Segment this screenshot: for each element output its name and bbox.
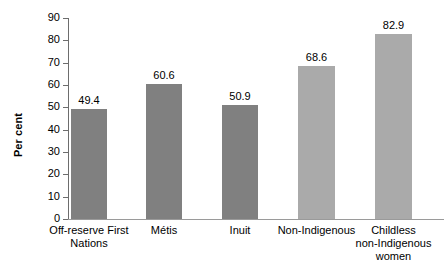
bar-value-label: 60.6 bbox=[153, 70, 174, 81]
y-axis-tick-mark bbox=[63, 85, 68, 86]
bar[interactable]: 49.4 bbox=[71, 109, 107, 219]
y-axis-title: Per cent bbox=[8, 95, 28, 175]
y-axis-tick-mark bbox=[63, 130, 68, 131]
y-axis-tick-label-text: 70 bbox=[28, 57, 60, 68]
y-axis-tick-label-text: 50 bbox=[28, 101, 60, 112]
bar-value-label: 49.4 bbox=[78, 95, 99, 106]
y-axis-tick-label: 80 bbox=[28, 34, 60, 46]
y-axis-tick-label-text: 60 bbox=[28, 79, 60, 90]
y-axis-tick-label: 90 bbox=[28, 12, 60, 24]
y-axis-line bbox=[68, 18, 69, 220]
y-axis-tick-label: 60 bbox=[28, 79, 60, 91]
y-axis-tick-mark bbox=[63, 197, 68, 198]
y-axis-tick-mark bbox=[63, 152, 68, 153]
y-axis-tick-label-text: 20 bbox=[28, 168, 60, 179]
bar[interactable]: 68.6 bbox=[298, 66, 335, 219]
bar-value-label: 50.9 bbox=[229, 91, 250, 102]
bar-value-label: 82.9 bbox=[383, 20, 404, 31]
y-axis-tick-label: 70 bbox=[28, 57, 60, 69]
y-axis-tick-label-text: 80 bbox=[28, 34, 60, 45]
bar[interactable]: 50.9 bbox=[222, 105, 258, 219]
y-axis-tick-mark bbox=[63, 174, 68, 175]
y-axis-tick-label: 20 bbox=[28, 168, 60, 180]
y-axis-tick-label-text: 10 bbox=[28, 191, 60, 202]
y-axis-tick-label-text: 40 bbox=[28, 124, 60, 135]
y-axis-tick-mark bbox=[63, 107, 68, 108]
y-axis-tick-label-text: 0 bbox=[28, 213, 60, 224]
y-axis-tick-label: 40 bbox=[28, 124, 60, 136]
bar-value-label: 68.6 bbox=[306, 52, 327, 63]
y-axis-tick-mark bbox=[63, 63, 68, 64]
y-axis-tick-mark bbox=[63, 40, 68, 41]
y-axis-tick-label: 30 bbox=[28, 146, 60, 158]
y-axis-tick-mark bbox=[63, 18, 68, 19]
y-axis-tick-label-text: 90 bbox=[28, 12, 60, 23]
bar-chart: Per cent 9080706050403020100 49.460.650.… bbox=[0, 0, 446, 275]
y-axis-title-label: Per cent bbox=[12, 113, 24, 157]
x-axis-line bbox=[68, 219, 444, 220]
x-axis-category-label: Childless non-Indigenous women bbox=[346, 224, 442, 263]
bar[interactable]: 60.6 bbox=[146, 84, 182, 219]
y-axis-tick-label-text: 30 bbox=[28, 146, 60, 157]
y-axis-tick-label: 50 bbox=[28, 101, 60, 113]
y-axis-tick-label: 10 bbox=[28, 191, 60, 203]
bar[interactable]: 82.9 bbox=[375, 34, 412, 219]
